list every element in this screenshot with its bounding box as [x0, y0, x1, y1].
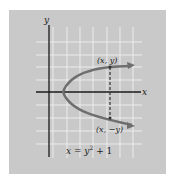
y-axis-label: y — [43, 15, 50, 25]
equation-label: x = y2 + 1 — [66, 144, 112, 156]
point-label-lower: (x, −y) — [96, 125, 123, 134]
parabola-figure: y x (x, y) (x, −y) x = y2 + 1 — [0, 0, 176, 179]
x-axis-label: x — [142, 87, 147, 97]
point-lower — [109, 117, 112, 120]
point-upper — [109, 66, 112, 69]
point-label-upper: (x, y) — [97, 56, 117, 65]
